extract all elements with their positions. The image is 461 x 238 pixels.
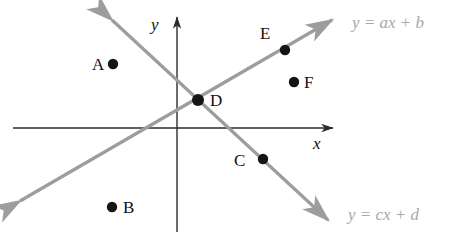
point-dot-e	[280, 45, 290, 55]
point-dot-f	[289, 77, 299, 87]
point-label-a: A	[92, 56, 104, 73]
point-label-d: D	[210, 92, 222, 109]
point-dot-c	[258, 154, 268, 164]
y-axis-label: y	[151, 16, 159, 33]
equation-label-ascending: y = ax + b	[352, 14, 424, 31]
coordinate-plane-figure: y x A B C D E F y = ax + b y = cx + d	[0, 0, 461, 238]
line-descending	[112, 20, 328, 220]
point-dot-b	[107, 202, 117, 212]
point-dot-d	[192, 94, 204, 106]
point-dot-a	[108, 59, 118, 69]
point-label-e: E	[260, 25, 270, 42]
figure-canvas	[0, 0, 461, 238]
x-axis-label: x	[313, 135, 321, 152]
equation-label-descending: y = cx + d	[348, 206, 419, 223]
point-label-c: C	[234, 152, 245, 169]
point-label-b: B	[123, 199, 134, 216]
point-label-f: F	[304, 74, 313, 91]
